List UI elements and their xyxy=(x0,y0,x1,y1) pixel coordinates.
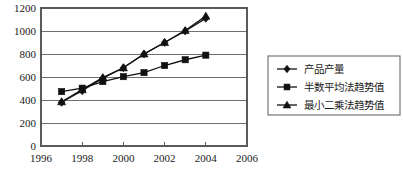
square-marker xyxy=(182,57,188,63)
y-tick-label: 800 xyxy=(20,48,37,60)
y-axis-tick-labels: 020040060080010001200 xyxy=(14,2,37,152)
x-tick-label: 2004 xyxy=(195,152,218,164)
y-tick-label: 1200 xyxy=(14,2,37,14)
square-marker xyxy=(162,62,168,68)
y-tick-label: 400 xyxy=(20,94,37,106)
square-marker xyxy=(141,70,147,76)
legend-label: 产品产量 xyxy=(304,63,345,75)
legend-label: 半数平均法趋势值 xyxy=(304,81,385,93)
legend-label: 最小二乘法趋势值 xyxy=(304,99,385,111)
y-tick-label: 1000 xyxy=(14,25,37,37)
data-series-group xyxy=(58,12,210,106)
x-tick-label: 2002 xyxy=(154,152,176,164)
chart-container: 020040060080010001200 199619982000200220… xyxy=(0,0,403,174)
square-marker xyxy=(284,84,290,90)
gridlines xyxy=(41,8,247,146)
triangle-marker xyxy=(202,12,210,19)
y-tick-label: 600 xyxy=(20,71,37,83)
x-axis-tick-labels: 199619982000200220042006 xyxy=(30,152,259,164)
square-marker xyxy=(203,52,209,58)
square-marker xyxy=(120,74,126,80)
x-axis-tick-marks xyxy=(41,142,247,146)
x-tick-label: 1998 xyxy=(71,152,94,164)
line-chart: 020040060080010001200 199619982000200220… xyxy=(0,0,403,174)
square-marker xyxy=(59,89,65,95)
x-tick-label: 2000 xyxy=(112,152,135,164)
y-tick-label: 200 xyxy=(20,117,37,129)
y-tick-label: 0 xyxy=(31,140,37,152)
chart-legend: 产品产量半数平均法趋势值最小二乘法趋势值 xyxy=(268,56,400,115)
x-tick-label: 2006 xyxy=(236,152,259,164)
x-tick-label: 1996 xyxy=(30,152,53,164)
